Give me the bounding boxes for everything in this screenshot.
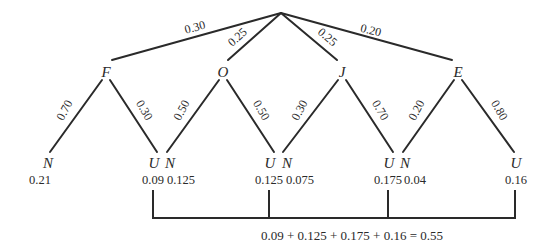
leaf-o-n: N [164,155,176,171]
leaf-e-n: N [399,155,411,171]
level2-edges [50,80,514,152]
joint-j-n: 0.075 [286,173,314,187]
joint-o-u: 0.125 [255,173,283,187]
joint-o-n: 0.125 [167,173,195,187]
leaf-j-n: N [281,155,293,171]
prob-j-u: 0.70 [369,97,392,122]
joint-j-u: 0.175 [374,173,402,187]
prob-e-n: 0.20 [405,98,427,123]
edge-root-e [281,13,452,60]
leaf-f-u: U [149,155,161,171]
node-f: F [100,64,111,80]
prob-e-u: 0.80 [488,97,511,122]
node-j: J [339,64,347,80]
prob-root-e: 0.20 [359,21,383,40]
prob-f-n: 0.70 [53,98,75,123]
leaf-f-n: N [42,155,54,171]
node-e: E [452,64,462,80]
sum-bracket [152,190,516,218]
leaf-j-u: U [384,155,396,171]
node-o: O [218,64,229,80]
probability-tree-diagram: 0.30 0.25 0.25 0.20 F O J E 0.70 0.30 0.… [0,0,550,248]
joint-f-n: 0.21 [29,173,51,187]
prob-o-u: 0.50 [250,97,273,122]
prob-f-u: 0.30 [133,97,156,122]
leaf-e-u: U [511,155,523,171]
prob-o-n: 0.50 [170,98,192,123]
joint-e-u: 0.16 [505,173,527,187]
joint-f-u: 0.09 [142,173,164,187]
joint-e-n: 0.04 [404,173,427,187]
leaf-o-u: U [265,155,277,171]
sum-equation: 0.09 + 0.125 + 0.175 + 0.16 = 0.55 [261,228,443,243]
root-edges [112,13,452,60]
